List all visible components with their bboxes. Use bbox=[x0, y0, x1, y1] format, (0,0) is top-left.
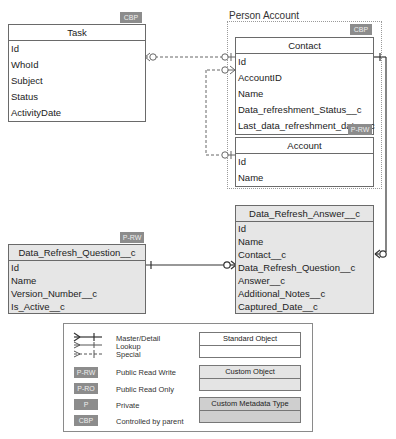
question-field: Name bbox=[9, 274, 145, 287]
answer-field: Data_Refresh_Question__c bbox=[236, 261, 373, 274]
contact-field: AccountID bbox=[236, 70, 373, 86]
answer-question-master-detail-line bbox=[145, 261, 236, 269]
legend-custom-object: Custom Object bbox=[199, 365, 301, 391]
legend-standard-object-label: Standard Object bbox=[200, 333, 300, 346]
legend-standard-object: Standard Object bbox=[199, 332, 301, 358]
data-refresh-answer-entity[interactable]: Data_Refresh_Answer__c Id Name Contact__… bbox=[235, 205, 374, 314]
task-field: Subject bbox=[9, 73, 145, 89]
legend-badge-p: P bbox=[74, 399, 98, 410]
answer-title: Data_Refresh_Answer__c bbox=[236, 206, 373, 222]
task-field: Status bbox=[9, 89, 145, 105]
task-field: WhoId bbox=[9, 57, 145, 73]
account-entity[interactable]: Account Id Name bbox=[235, 137, 374, 187]
answer-field: Additional_Notes__c bbox=[236, 287, 373, 300]
contact-field: Name bbox=[236, 86, 373, 102]
legend-badge-pro-label: Public Read Only bbox=[116, 385, 174, 394]
answer-field: Answer__c bbox=[236, 274, 373, 287]
account-field: Name bbox=[236, 170, 373, 186]
question-field: Is_Active__c bbox=[9, 300, 145, 313]
task-field: Id bbox=[9, 41, 145, 57]
contact-entity[interactable]: Contact Id AccountID Name Data_refreshme… bbox=[235, 37, 374, 135]
task-contact-lookup-line bbox=[145, 53, 235, 61]
lookup-line-icon bbox=[74, 342, 102, 348]
answer-field: Contact__c bbox=[236, 248, 373, 261]
special-line-icon bbox=[74, 350, 102, 358]
question-field: Version_Number__c bbox=[9, 287, 145, 300]
legend-badge-prw-label: Public Read Write bbox=[116, 368, 176, 377]
person-account-group-label: Person Account bbox=[229, 10, 299, 21]
legend-badge-cbp: CBP bbox=[74, 415, 98, 426]
legend-line-type-icons bbox=[72, 332, 112, 364]
task-sharing-badge: CBP bbox=[120, 12, 142, 23]
account-title: Account bbox=[236, 138, 373, 154]
answer-field: Name bbox=[236, 235, 373, 248]
answer-field: Id bbox=[236, 222, 373, 235]
master-detail-line-icon bbox=[74, 333, 102, 341]
question-title: Data_Refresh_Question__c bbox=[9, 245, 145, 261]
legend-custom-object-label: Custom Object bbox=[200, 366, 300, 379]
contact-sharing-badge: CBP bbox=[350, 24, 372, 35]
question-sharing-badge: P-RW bbox=[120, 232, 144, 243]
legend-special-label: Special bbox=[116, 350, 141, 359]
account-field: Id bbox=[236, 154, 373, 170]
legend: Master/Detail Lookup Special P-RW Public… bbox=[63, 323, 313, 432]
task-field: ActivityDate bbox=[9, 105, 145, 121]
task-title: Task bbox=[9, 25, 145, 41]
legend-custom-metadata-type: Custom Metadata Type bbox=[199, 397, 301, 423]
contact-title: Contact bbox=[236, 38, 373, 54]
question-field: Id bbox=[9, 261, 145, 274]
contact-field: Data_refreshment_Status__c bbox=[236, 102, 373, 118]
task-entity[interactable]: Task Id WhoId Subject Status ActivityDat… bbox=[8, 24, 146, 122]
contact-field: Id bbox=[236, 54, 373, 70]
legend-custom-metadata-type-label: Custom Metadata Type bbox=[200, 398, 300, 411]
legend-badge-cbp-label: Controlled by parent bbox=[116, 417, 184, 426]
legend-badge-pro: P-RO bbox=[74, 383, 98, 394]
account-sharing-badge: P-RW bbox=[348, 124, 372, 135]
answer-field: Captured_Date__c bbox=[236, 300, 373, 313]
legend-badge-prw: P-RW bbox=[74, 367, 98, 378]
data-refresh-question-entity[interactable]: Data_Refresh_Question__c Id Name Version… bbox=[8, 244, 146, 314]
legend-badge-p-label: Private bbox=[116, 401, 139, 410]
